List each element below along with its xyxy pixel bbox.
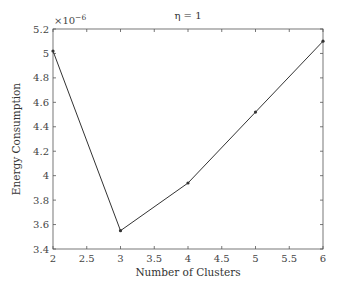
x-axis-label: Number of Clusters — [135, 266, 240, 278]
x-tick-label: 5.5 — [281, 253, 297, 264]
x-tick-label: 4.5 — [214, 253, 230, 264]
x-tick-label: 2.5 — [79, 253, 95, 264]
y-axis-label: Energy Consumption — [10, 83, 22, 195]
x-tick-label: 5 — [252, 253, 258, 264]
y-axis-ticks: 3.43.63.844.24.44.64.855.2 — [33, 24, 323, 255]
data-series — [51, 40, 324, 233]
y-tick-label: 5 — [43, 48, 49, 59]
x-tick-label: 4 — [185, 253, 191, 264]
y-tick-label: 4.6 — [33, 97, 49, 108]
y-tick-label: 4.2 — [33, 146, 49, 157]
plot-area — [53, 29, 323, 249]
y-tick-label: 4.4 — [33, 121, 49, 132]
data-point-marker — [119, 229, 122, 232]
y-tick-label: 4 — [43, 170, 49, 181]
chart-title: η = 1 — [174, 10, 201, 21]
data-point-marker — [321, 40, 324, 43]
y-tick-label: 3.4 — [33, 244, 49, 255]
data-point-marker — [186, 181, 189, 184]
x-tick-label: 6 — [320, 253, 326, 264]
x-tick-label: 3.5 — [146, 253, 162, 264]
x-tick-label: 2 — [50, 253, 56, 264]
x-tick-label: 3 — [117, 253, 123, 264]
line-chart: η = 1 ×10−6 22.533.544.555.56 3.43.63.84… — [0, 0, 340, 295]
x-axis-ticks: 22.533.544.555.56 — [50, 29, 326, 264]
data-point-marker — [254, 111, 257, 114]
y-tick-label: 5.2 — [33, 24, 49, 35]
y-tick-label: 3.8 — [33, 195, 49, 206]
y-tick-label: 3.6 — [33, 219, 49, 230]
y-axis-multiplier: ×10−6 — [54, 13, 86, 26]
y-tick-label: 4.8 — [33, 72, 49, 83]
svg-text:×10−6: ×10−6 — [54, 13, 86, 26]
series-line — [53, 41, 323, 230]
data-point-marker — [51, 49, 54, 52]
